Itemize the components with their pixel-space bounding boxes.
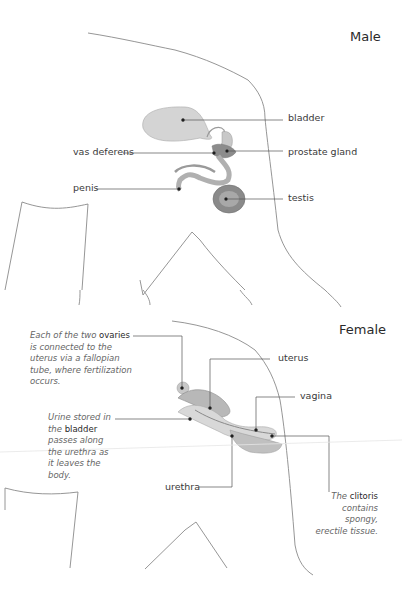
note-ovaries-term: ovaries [99, 330, 130, 340]
note-ovaries: Each of the two ovaries is connected to … [30, 330, 135, 388]
note-ovaries-pre: Each of the two [30, 330, 96, 340]
male-section-title: Male [350, 29, 381, 44]
note-clitoris-term: clitoris [350, 491, 378, 501]
label-uterus: uterus [278, 352, 308, 363]
label-testis: testis [288, 192, 314, 203]
label-prostate-gland: prostate gland [288, 146, 357, 157]
note-bladder-post: passes along the urethra as it leaves th… [48, 435, 109, 480]
note-bladder: Urine stored in the bladder passes along… [48, 412, 113, 481]
male-organs [143, 107, 245, 213]
note-clitoris-post: contains spongy, erectile tissue. [316, 503, 378, 536]
label-penis: penis [73, 182, 99, 193]
female-organs [177, 382, 282, 453]
note-bladder-term: bladder [65, 424, 97, 434]
label-vagina: vagina [300, 390, 332, 401]
female-section-title: Female [339, 322, 386, 337]
note-clitoris: The clitoris contains spongy, erectile t… [312, 491, 378, 537]
label-urethra: urethra [165, 481, 200, 492]
note-ovaries-post: is connected to the uterus via a fallopi… [30, 342, 132, 387]
male-body-outline [5, 33, 325, 295]
note-bladder-line1: Urine stored in [48, 412, 111, 422]
label-vas-deferens: vas deferens [73, 146, 134, 157]
note-clitoris-pre: The [331, 491, 347, 501]
note-bladder-pre: the [48, 424, 62, 434]
label-bladder: bladder [288, 112, 324, 123]
